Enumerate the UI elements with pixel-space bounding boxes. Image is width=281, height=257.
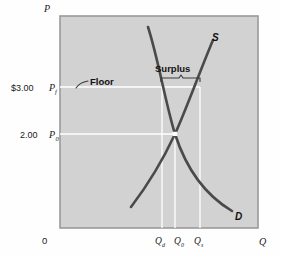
- x-tick-symbol-equilibrium: Q: [174, 236, 181, 246]
- surplus-annotation-label: Surplus: [155, 63, 190, 74]
- x-tick-symbol-supplied: Q: [194, 236, 201, 246]
- x-tick-subscript-demanded: d: [162, 242, 166, 248]
- supply-curve-label: S: [212, 32, 219, 43]
- x-tick-subscript-equilibrium: 0: [181, 242, 184, 248]
- equilibrium-point-marker: [173, 132, 178, 136]
- chart-canvas: P Q 0 $3.00 P f 2.00 P 0 Q d Q 0 Q s S D…: [0, 0, 281, 257]
- y-tick-subscript-equilibrium: 0: [56, 135, 60, 142]
- x-tick-subscript-supplied: s: [201, 242, 204, 248]
- supply-demand-figure: P Q 0 $3.00 P f 2.00 P 0 Q d Q 0 Q s S D…: [0, 0, 281, 257]
- y-axis-label: P: [43, 3, 50, 14]
- y-tick-value-equilibrium: 2.00: [20, 130, 38, 140]
- floor-annotation-label: Floor: [90, 76, 114, 87]
- y-tick-value-floor: $3.00: [11, 83, 34, 93]
- plot-area-inner-shade: [61, 17, 257, 227]
- origin-label: 0: [42, 235, 47, 246]
- y-tick-symbol-equilibrium: P: [48, 129, 55, 140]
- x-tick-symbol-demanded: Q: [155, 236, 162, 246]
- x-axis-label: Q: [259, 236, 267, 247]
- demand-curve-label: D: [235, 211, 242, 222]
- y-tick-subscript-floor: f: [55, 88, 58, 95]
